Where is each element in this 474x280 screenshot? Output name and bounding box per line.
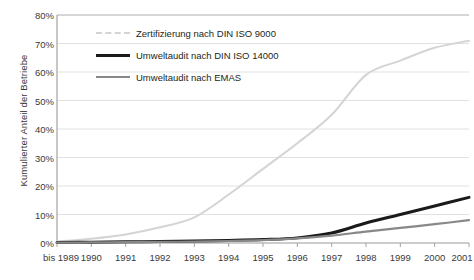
y-tick-label: 0%: [14, 238, 54, 249]
legend-swatch-iso9000: [96, 32, 130, 34]
legend-label-iso9000: Zertifizierung nach DIN ISO 9000: [136, 28, 276, 39]
chart-container: Kumulierter Anteil der Betriebe 0%10%20%…: [0, 0, 474, 280]
x-tick-label: 1999: [390, 252, 411, 263]
x-tick-label: 1997: [321, 252, 342, 263]
chart-legend: Zertifizierung nach DIN ISO 9000 Umwelta…: [96, 22, 279, 88]
y-tick-label: 40%: [14, 124, 54, 135]
x-axis-tick-labels: bis 198919901991199219931994199519961997…: [0, 252, 474, 272]
x-tick-label: 1992: [149, 252, 170, 263]
y-tick-label: 20%: [14, 181, 54, 192]
x-tick-label: 2001: [451, 252, 472, 263]
legend-item-iso9000: Zertifizierung nach DIN ISO 9000: [96, 22, 279, 44]
legend-label-emas: Umweltaudit nach EMAS: [136, 72, 241, 83]
y-axis-tick-labels: 0%10%20%30%40%50%60%70%80%: [12, 0, 54, 280]
x-tick-label: 1993: [184, 252, 205, 263]
legend-label-iso14000: Umweltaudit nach DIN ISO 14000: [136, 50, 279, 61]
y-tick-label: 50%: [14, 95, 54, 106]
x-tick-label: bis 1989: [43, 252, 79, 263]
legend-item-emas: Umweltaudit nach EMAS: [96, 66, 279, 88]
y-tick-label: 30%: [14, 152, 54, 163]
x-tick-label: 1991: [115, 252, 136, 263]
legend-swatch-iso14000: [96, 54, 130, 57]
x-tick-label: 1995: [252, 252, 273, 263]
x-tick-label: 1990: [81, 252, 102, 263]
legend-swatch-emas: [96, 76, 130, 78]
x-tick-label: 1998: [355, 252, 376, 263]
x-tick-label: 2000: [424, 252, 445, 263]
y-tick-label: 70%: [14, 38, 54, 49]
y-tick-label: 10%: [14, 209, 54, 220]
x-tick-label: 1994: [218, 252, 239, 263]
legend-item-iso14000: Umweltaudit nach DIN ISO 14000: [96, 44, 279, 66]
x-tick-label: 1996: [287, 252, 308, 263]
y-tick-label: 80%: [14, 10, 54, 21]
y-tick-label: 60%: [14, 67, 54, 78]
series-line: [57, 220, 469, 243]
